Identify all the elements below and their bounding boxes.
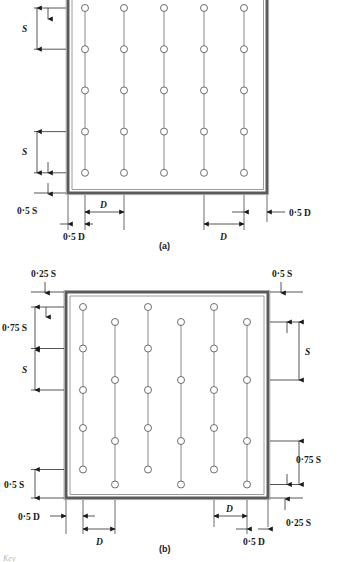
- dim-label-a-half-s: 0·5 S: [17, 206, 37, 216]
- dim-label-b-three-quarter-s-left: 0·75 S: [2, 323, 27, 333]
- panel-b-caption: (b): [159, 544, 171, 554]
- dim-label-a-d-top: D: [99, 200, 107, 210]
- figure-container: S S 0·5 S D: [0, 0, 341, 562]
- dim-label-a-s-upper: S: [22, 24, 27, 34]
- dim-label-b-half-s-top: 0·5 S: [272, 269, 292, 279]
- dim-label-b-s-left: S: [22, 365, 27, 375]
- dim-label-a-d-bottom: D: [219, 232, 227, 242]
- technical-diagram-svg: S S 0·5 S D: [0, 0, 341, 562]
- dim-label-a-half-d-left: 0·5 D: [63, 232, 85, 242]
- dim-label-b-s-right: S: [305, 347, 310, 357]
- dim-label-b-d-right: D: [225, 504, 233, 514]
- dim-label-b-quarter-s-bottom: 0·25 S: [286, 518, 311, 528]
- panel-a-caption: (a): [159, 241, 170, 251]
- dim-label-b-half-d-left: 0·5 D: [18, 512, 40, 522]
- dim-label-b-half-d-right: 0·5 D: [243, 537, 265, 547]
- dim-label-b-half-s-left: 0·5 S: [4, 480, 24, 490]
- page-background: [0, 0, 341, 562]
- dim-label-a-half-d-right: 0·5 D: [289, 208, 311, 218]
- dim-label-b-d-left: D: [95, 537, 103, 547]
- key-footer-label: Key: [2, 554, 16, 562]
- dim-label-b-three-quarter-s-right: 0·75 S: [296, 455, 321, 465]
- dim-label-b-quarter-s-top: 0·25 S: [31, 269, 56, 279]
- dim-label-a-s-lower: S: [22, 147, 27, 157]
